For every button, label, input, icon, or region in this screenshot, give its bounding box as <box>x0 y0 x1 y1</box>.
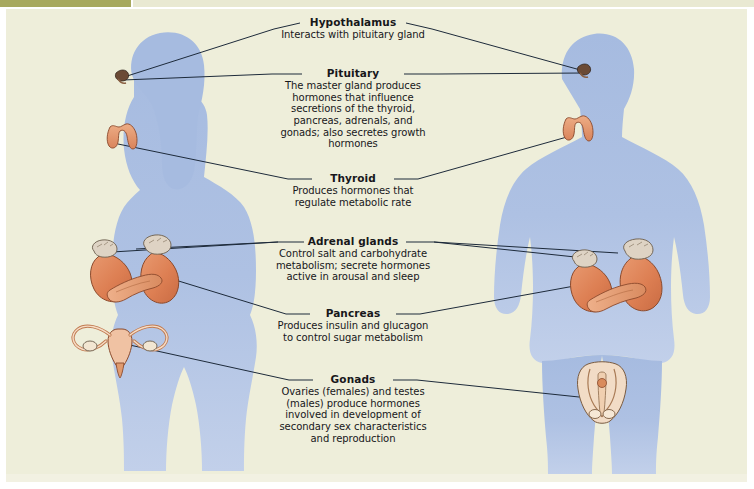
label-thyroid-description: Produces hormones that regulate metaboli… <box>253 185 453 208</box>
label-thyroid-title: Thyroid <box>253 172 453 184</box>
label-pancreas: Pancreas Produces insulin and glucagon t… <box>243 307 463 343</box>
label-thyroid: Thyroid Produces hormones that regulate … <box>253 172 453 208</box>
label-gonads-title: Gonads <box>248 373 458 385</box>
label-gonads: Gonads Ovaries (females) and testes (mal… <box>248 373 458 444</box>
label-pancreas-title: Pancreas <box>243 307 463 319</box>
label-gonads-description: Ovaries (females) and testes (males) pro… <box>248 386 458 444</box>
diagram-canvas: Hypothalamus Interacts with pituitary gl… <box>6 9 747 474</box>
label-hypothalamus-description: Interacts with pituitary gland <box>253 29 453 41</box>
label-pituitary-title: Pituitary <box>253 67 453 79</box>
label-pancreas-description: Produces insulin and glucagon to control… <box>243 320 463 343</box>
label-adrenal-glands-title: Adrenal glands <box>243 235 463 247</box>
label-adrenal-glands: Adrenal glands Control salt and carbohyd… <box>243 235 463 283</box>
label-pituitary-description: The master gland produces hormones that … <box>253 80 453 150</box>
endocrine-system-diagram: Hypothalamus Interacts with pituitary gl… <box>0 0 754 489</box>
label-hypothalamus: Hypothalamus Interacts with pituitary gl… <box>253 16 453 41</box>
label-adrenal-glands-description: Control salt and carbohydrate metabolism… <box>243 248 463 283</box>
label-pituitary: Pituitary The master gland produces horm… <box>253 67 453 150</box>
label-hypothalamus-title: Hypothalamus <box>253 16 453 28</box>
top-olive-bar <box>0 0 131 7</box>
bottom-strip <box>6 474 747 482</box>
labels-layer: Hypothalamus Interacts with pituitary gl… <box>6 9 747 474</box>
top-light-bar <box>133 0 754 7</box>
